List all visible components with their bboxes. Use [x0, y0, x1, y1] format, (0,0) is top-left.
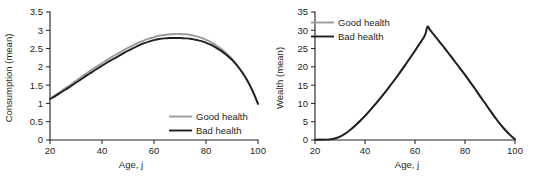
series-line-bad-health: [50, 38, 258, 104]
x-tick-marks: [50, 140, 258, 144]
series-line-good-health: [315, 26, 515, 139]
x-tick-label: 20: [310, 145, 321, 156]
y-tick-marks: [46, 12, 50, 140]
legend-label-bad-health: Bad health: [338, 31, 383, 42]
wealth-chart-svg: 20406080100 05101520253035 Good health B…: [267, 0, 535, 176]
consumption-legend: Good health Bad health: [169, 111, 248, 136]
x-tick-label: 100: [507, 145, 523, 156]
y-tick-label: 1: [38, 98, 43, 109]
wealth-legend: Good health Bad health: [311, 17, 390, 42]
y-axis-title: Consumption (mean): [3, 34, 14, 123]
y-tick-label: 35: [297, 6, 308, 17]
x-tick-label: 20: [45, 145, 56, 156]
y-tick-label: 3.5: [30, 6, 43, 17]
consumption-series-group: [50, 34, 258, 104]
y-tick-label: 3: [38, 25, 43, 36]
x-tick-labels: 20406080100: [310, 145, 523, 156]
y-tick-label: 5: [303, 116, 308, 127]
legend-label-bad-health: Bad health: [196, 125, 241, 136]
x-tick-label: 60: [149, 145, 160, 156]
y-tick-label: 0: [38, 134, 43, 145]
x-tick-label: 40: [97, 145, 108, 156]
figure-two-panel-chart: 20406080100 00.511.522.533.5 Good health…: [0, 0, 535, 176]
y-tick-labels: 05101520253035: [297, 6, 308, 145]
x-tick-labels: 20406080100: [45, 145, 266, 156]
y-tick-label: 2: [38, 61, 43, 72]
wealth-axes: 20406080100 05101520253035: [297, 6, 523, 156]
y-tick-label: 0.5: [30, 116, 43, 127]
y-tick-label: 10: [297, 98, 308, 109]
y-tick-label: 30: [297, 25, 308, 36]
series-line-bad-health: [315, 26, 515, 139]
x-tick-label: 60: [410, 145, 421, 156]
x-tick-label: 80: [460, 145, 471, 156]
x-tick-label: 80: [201, 145, 212, 156]
y-tick-label: 25: [297, 43, 308, 54]
y-tick-label: 2.5: [30, 43, 43, 54]
y-tick-labels: 00.511.522.533.5: [30, 6, 43, 145]
chart-panel-wealth: 20406080100 05101520253035 Good health B…: [267, 0, 535, 176]
x-axis-title: Age, j: [395, 159, 419, 170]
x-tick-label: 100: [250, 145, 266, 156]
y-tick-label: 20: [297, 61, 308, 72]
legend-label-good-health: Good health: [196, 111, 248, 122]
legend-label-good-health: Good health: [338, 17, 390, 28]
x-tick-marks: [315, 140, 515, 144]
chart-panel-consumption: 20406080100 00.511.522.533.5 Good health…: [0, 0, 267, 176]
y-tick-label: 0: [303, 134, 308, 145]
wealth-series-group: [315, 26, 515, 139]
series-line-good-health: [50, 34, 258, 104]
y-tick-marks: [311, 12, 315, 140]
y-axis-title: Wealth (mean): [274, 47, 285, 109]
y-tick-label: 15: [297, 80, 308, 91]
y-tick-label: 1.5: [30, 80, 43, 91]
x-tick-label: 40: [360, 145, 371, 156]
x-axis-title: Age, j: [119, 159, 143, 170]
consumption-chart-svg: 20406080100 00.511.522.533.5 Good health…: [0, 0, 267, 176]
